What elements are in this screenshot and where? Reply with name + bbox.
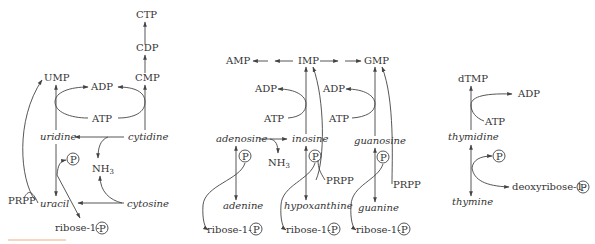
cytidine-label: cytidine (128, 131, 169, 142)
cytosine-label: cytosine (127, 198, 169, 209)
thymidine-label: thymidine (448, 131, 499, 142)
thymine-label: thymine (452, 196, 493, 207)
ribose-release-arrow-3 (351, 164, 383, 230)
atp-label: ATP (91, 113, 112, 124)
phosphate-p-label: P (496, 151, 503, 162)
phosphate-in-arrow (57, 160, 66, 175)
phosphate-p-label: P (380, 152, 387, 163)
dtmp-label: dTMP (458, 73, 488, 84)
phosphate-p-label: P (242, 151, 249, 162)
phosphate-p-label: P (331, 224, 338, 235)
phosphate-p-label: P (580, 182, 587, 193)
imp-label: IMP (298, 55, 319, 66)
purine-panel: AMP IMP GMP ADP ATP ADP ATP adenosine in… (203, 55, 421, 235)
prpp-label-2: PRPP (393, 179, 421, 190)
phosphate-p-label: P (99, 223, 106, 234)
atp-adp-loop-left (55, 87, 88, 118)
uracil-label: uracil (40, 198, 69, 209)
guanosine-label: guanosine (354, 135, 406, 146)
adenosine-label: adenosine (216, 133, 268, 144)
atp-label-1: ATP (263, 113, 284, 124)
amp-label: AMP (225, 55, 250, 66)
deamination-arrow (270, 139, 278, 153)
uridine-label: uridine (40, 131, 76, 142)
adenine-label: adenine (223, 200, 263, 211)
prpp-label-1: PRPP (326, 175, 354, 186)
to-ribose-arrow (57, 175, 80, 218)
guanine-label: guanine (358, 202, 399, 213)
adp-label-2: ADP (322, 83, 345, 94)
salvage-pathway-diagram: CTP CDP CMP UMP ADP ATP uridine cytidine… (0, 0, 595, 244)
ribose-release-arrow-1 (203, 163, 245, 230)
atp-adp-loop-2 (346, 89, 375, 118)
cdp-label: CDP (136, 42, 159, 53)
phosphate-p-label: P (401, 224, 408, 235)
cytosine-deamination-arrow (100, 176, 122, 203)
ribose-1-label-2: ribose-1- (286, 224, 331, 235)
nh3-label: NH3 (268, 157, 290, 170)
pyrimidine-panel: CTP CDP CMP UMP ADP ATP uridine cytidine… (8, 9, 169, 240)
ribose-1-label-3: ribose-1- (356, 224, 401, 235)
adp-label-1: ADP (254, 83, 277, 94)
atp-label-2: ATP (328, 113, 349, 124)
phosphate-p-label: P (70, 154, 77, 165)
thymidine-panel: dTMP ADP ATP thymidine P thymine deoxyri… (448, 73, 589, 207)
adp-label: ADP (517, 88, 540, 99)
ctp-label: CTP (136, 9, 157, 20)
phosphate-in-arrow (472, 156, 492, 168)
ribose-1-label: ribose-1- (55, 222, 100, 233)
cmp-label: CMP (135, 72, 160, 83)
hypoxanthine-label: hypoxanthine (284, 200, 353, 211)
ribose-release-arrow-2 (281, 163, 315, 230)
ribose-1-label-1: ribose-1- (207, 224, 252, 235)
deoxyribose-1-label: deoxyribose-1- (512, 181, 586, 192)
guanine-prpp-to-gmp-arrow (382, 67, 392, 184)
deamination-arrow (98, 137, 108, 158)
nh3-label: NH3 (92, 163, 114, 176)
ump-label: UMP (44, 72, 70, 83)
inosine-label: inosine (292, 133, 328, 144)
prpp-label: PRPP (8, 195, 36, 206)
phosphate-p-label: P (253, 224, 260, 235)
deoxyribose-release-arrow (472, 168, 509, 187)
atp-label: ATP (484, 116, 505, 127)
adp-label: ADP (90, 81, 113, 92)
gmp-label: GMP (364, 55, 389, 66)
atp-adp-loop-right (118, 87, 145, 118)
